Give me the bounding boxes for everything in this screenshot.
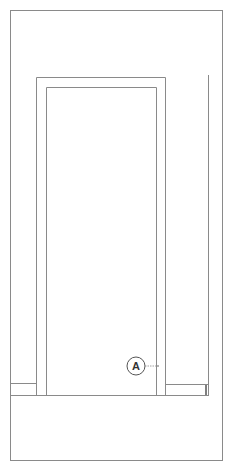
callout-a: A	[127, 357, 159, 375]
door-leaf-outline	[47, 88, 157, 396]
callout-label: A	[132, 360, 140, 372]
door-elevation-drawing: A	[0, 0, 230, 466]
door-casing-outline	[37, 78, 166, 396]
callout-leader-dot	[157, 365, 159, 367]
